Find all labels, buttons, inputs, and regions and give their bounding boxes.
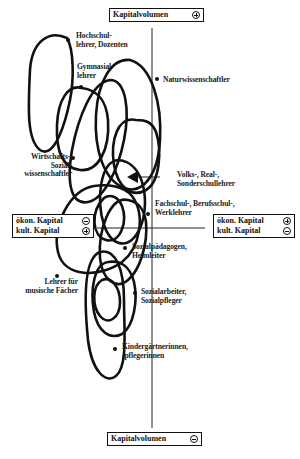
minus-circle-icon — [82, 217, 90, 225]
label-line: musische Fächer — [14, 287, 78, 296]
label-sozialarbeiter: Sozialarbeiter, Sozialpfleger — [141, 288, 186, 305]
left-capital-box: ökon. Kapital kult. Kapital — [12, 214, 94, 238]
volks-arrow-icon — [127, 171, 138, 183]
left-kult-label: kult. Kapital — [16, 226, 60, 236]
dot-naturwissenschaftler — [155, 77, 159, 81]
minus-circle-icon — [283, 227, 291, 235]
kapitalvolumen-bottom-box: Kapitalvolumen — [107, 432, 202, 446]
loop-inner-2 — [94, 279, 120, 320]
label-kindergaertnerinnen: Kindergärtnerinnen, -pflegerinnen — [122, 343, 188, 360]
label-gymnasiallehrer: Gymnasial- lehrer — [77, 63, 114, 80]
kapitalvolumen-bottom-label: Kapitalvolumen — [111, 434, 166, 444]
kapitalvolumen-top-box: Kapitalvolumen — [109, 8, 204, 22]
right-oekon-label: ökon. Kapital — [217, 216, 264, 226]
dot-hochschullehrer — [66, 38, 70, 42]
label-sozialpaedagogen: Sozialpädagogen, Heimleiter — [132, 243, 187, 260]
label-line: lehrer, Dozenten — [76, 41, 128, 50]
dot-kindergaertnerinnen — [113, 347, 117, 351]
label-line: Heimleiter — [132, 252, 187, 261]
label-volksschullehrer: Volks-, Real-, Sonderschullehrer — [177, 171, 235, 188]
left-oekon-label: ökon. Kapital — [16, 216, 63, 226]
label-wirtschaftswissenschaftler: Wirtschafts-, Sozial- wissenschaftler — [12, 153, 72, 179]
dot-sozialarbeiter — [133, 291, 137, 295]
dot-fachschul — [146, 212, 150, 216]
label-naturwissenschaftler: Naturwissenschaftler — [163, 76, 230, 85]
label-fachschullehrer: Fachschul-, Berufsschul-, Werklehrer — [155, 200, 235, 217]
label-line: Sonderschullehrer — [177, 180, 235, 189]
label-line: Werklehrer — [155, 209, 235, 218]
plus-circle-icon — [283, 217, 291, 225]
dot-sozialpaedagogen — [123, 246, 127, 250]
label-line: lehrer — [77, 72, 114, 81]
kapitalvolumen-top-label: Kapitalvolumen — [113, 10, 168, 20]
right-kult-label: kult. Kapital — [217, 226, 261, 236]
label-line: Sozialpfleger — [141, 297, 186, 306]
label-line: Naturwissenschaftler — [163, 76, 230, 85]
right-capital-box: ökon. Kapital kult. Kapital — [213, 214, 295, 238]
label-lehrer-musische: Lehrer für musische Fächer — [14, 278, 78, 295]
plus-circle-icon — [192, 11, 200, 19]
label-line: -pflegerinnen — [122, 352, 188, 361]
label-hochschullehrer: Hochschul- lehrer, Dozenten — [76, 32, 128, 49]
minus-circle-icon — [190, 435, 198, 443]
label-line: wissenschaftler — [12, 170, 72, 179]
dot-gymnasiallehrer — [79, 85, 83, 89]
plus-circle-icon — [82, 227, 90, 235]
